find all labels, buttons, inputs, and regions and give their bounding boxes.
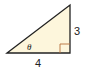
triangle — [7, 5, 70, 53]
angle-label-theta: θ — [27, 42, 32, 52]
side-label-opposite: 3 — [74, 25, 80, 37]
right-triangle-diagram: θ 3 4 — [0, 0, 88, 72]
side-label-adjacent: 4 — [35, 57, 41, 69]
